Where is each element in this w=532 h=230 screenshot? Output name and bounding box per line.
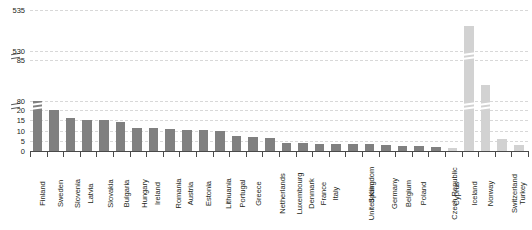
x-axis-label: Lithuania (213, 158, 230, 228)
x-axis-tick (113, 151, 114, 157)
x-axis-label: Romania (163, 158, 180, 228)
x-axis-label: Hungary (130, 158, 147, 228)
x-axis-label-text: Greece (254, 181, 263, 206)
bar (149, 128, 159, 151)
x-axis-tick (329, 151, 330, 157)
x-axis-label: Norway (478, 158, 495, 228)
x-axis-label: Spain (362, 158, 379, 228)
bar-slot (428, 10, 445, 151)
x-axis-tick (179, 151, 180, 157)
x-axis-label: Italy (329, 158, 346, 228)
bar-slot (30, 10, 47, 151)
bar-slot (130, 10, 147, 151)
y-axis-tick-label: 5 (21, 136, 25, 145)
x-axis-label: Sweden (47, 158, 64, 228)
bar-slot (213, 10, 230, 151)
bar-slot (445, 10, 462, 151)
x-axis-label: United Kingdom (345, 158, 362, 228)
bar (116, 122, 126, 151)
bar (331, 144, 341, 151)
x-axis-label-text: Finland (38, 181, 47, 206)
bar-slot (511, 10, 528, 151)
bar-slot (478, 10, 495, 151)
x-axis-tick (478, 151, 479, 157)
bar-slot (47, 10, 64, 151)
x-axis-tick (312, 151, 313, 157)
bar-slot (296, 10, 313, 151)
x-axis-tick (163, 151, 164, 157)
bar-slot (345, 10, 362, 151)
x-axis-label-text: Austria (187, 181, 196, 204)
x-axis-label-text: Italy (331, 186, 340, 200)
bar (298, 143, 308, 151)
bar (348, 144, 358, 151)
y-axis-tick-label: 15 (17, 116, 25, 125)
bar (165, 129, 175, 151)
x-axis-label: Slovenia (63, 158, 80, 228)
x-axis-tick (511, 151, 512, 157)
bar (49, 110, 59, 151)
x-axis-label: Turkey (511, 158, 528, 228)
bar-slot (179, 10, 196, 151)
x-axis-label: Netherlands (262, 158, 279, 228)
x-axis-tick (445, 151, 446, 157)
x-axis-label: Germany (379, 158, 396, 228)
x-axis-label: Switzerland (495, 158, 512, 228)
bar (481, 85, 491, 151)
x-axis-label: Greece (246, 158, 263, 228)
x-axis-tick (296, 151, 297, 157)
bar-slot (163, 10, 180, 151)
x-axis-label: Austria (179, 158, 196, 228)
y-axis-tick-label: 10 (17, 126, 25, 135)
x-axis-label: Ireland (146, 158, 163, 228)
bar-slot (229, 10, 246, 151)
bar (265, 138, 275, 151)
bar (132, 128, 142, 151)
x-axis-tick (395, 151, 396, 157)
bar-slot (146, 10, 163, 151)
bars-group (30, 10, 528, 151)
x-axis-label-text: Cyprus (452, 181, 461, 205)
x-axis-label: Finland (30, 158, 47, 228)
x-axis-tick (146, 151, 147, 157)
x-axis-label: Slovakia (96, 158, 113, 228)
x-axis-label: Luxembourg (279, 158, 296, 228)
x-axis-tick (96, 151, 97, 157)
bar (33, 101, 43, 151)
bar-slot (395, 10, 412, 151)
x-axis-tick (47, 151, 48, 157)
x-axis-tick (428, 151, 429, 157)
x-axis-tick (528, 151, 529, 157)
bar-slot (329, 10, 346, 151)
bar-slot (80, 10, 97, 151)
bar (199, 130, 209, 151)
bar (82, 120, 92, 151)
x-axis-label: Cyprus (445, 158, 462, 228)
x-axis-label-text: Iceland (469, 181, 478, 205)
bar (248, 137, 258, 151)
bar (99, 120, 109, 151)
x-axis-ticks (30, 151, 528, 157)
bar (497, 139, 507, 151)
x-axis-tick (379, 151, 380, 157)
bar (315, 144, 325, 151)
y-axis-tick-label: 530 (12, 47, 25, 56)
x-axis-label: Poland (412, 158, 429, 228)
x-axis-label-text: Turkey (518, 182, 527, 205)
x-axis-label: Iceland (462, 158, 479, 228)
bar-slot (312, 10, 329, 151)
bar-slot (362, 10, 379, 151)
bar-slot (279, 10, 296, 151)
bar (282, 143, 292, 151)
x-axis-label-text: Spain (367, 183, 376, 202)
x-axis-label: France (312, 158, 329, 228)
bar-slot (462, 10, 479, 151)
x-axis-label: Denmark (296, 158, 313, 228)
y-axis-tick-label: 0 (21, 147, 25, 156)
bar-slot (96, 10, 113, 151)
x-axis-tick (80, 151, 81, 157)
bar-chart: 051015208085530535 FinlandSwedenSlovenia… (0, 0, 532, 230)
x-axis-tick (262, 151, 263, 157)
x-axis-labels: FinlandSwedenSloveniaLatviaSlovakiaBulga… (30, 158, 528, 228)
bar (66, 118, 76, 151)
